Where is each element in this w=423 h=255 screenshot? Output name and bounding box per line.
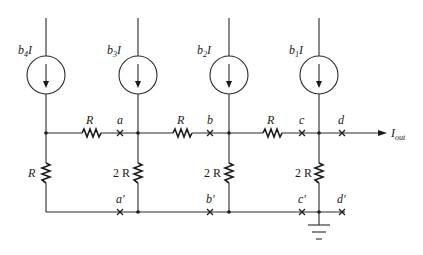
resistor-series-1 (82, 129, 101, 137)
label-b3I: b3I (107, 43, 122, 59)
label-r-series-3: R (266, 113, 275, 127)
current-source-b4 (27, 18, 65, 133)
label-r-shunt-left: R (27, 166, 36, 180)
current-source-b1 (300, 18, 338, 133)
current-source-b2 (210, 18, 248, 133)
resistor-series-2 (173, 129, 192, 137)
label-node-a-prime: a′ (116, 192, 125, 206)
resistor-shunt-a (134, 163, 142, 183)
output-arrow-icon (378, 130, 387, 136)
shunt-left (42, 133, 50, 212)
junction-dot (227, 210, 231, 214)
label-b2I: b2I (197, 43, 212, 59)
resistor-shunt-c (315, 163, 323, 183)
label-node-a: a (117, 113, 123, 127)
label-node-b-prime: b′ (206, 192, 215, 206)
junction-dot (136, 210, 140, 214)
current-source-b3 (119, 18, 157, 133)
label-r-shunt-a: 2 R (113, 166, 130, 180)
resistor-shunt-left (42, 163, 50, 183)
shunt-a (134, 133, 142, 212)
ground-icon (308, 212, 330, 239)
label-r-shunt-c: 2 R (295, 166, 312, 180)
label-node-b: b (207, 113, 213, 127)
shunt-c (315, 133, 323, 212)
label-r-series-2: R (176, 113, 185, 127)
resistor-shunt-b (225, 163, 233, 183)
shunt-b (225, 133, 233, 212)
label-node-c-prime: c′ (298, 192, 306, 206)
label-node-d: d (338, 113, 345, 127)
circuit-svg: b4I b3I b2I b1I R R R a (0, 0, 423, 255)
label-iout: Iout (390, 126, 406, 142)
circuit-diagram: b4I b3I b2I b1I R R R a (0, 0, 423, 255)
label-b4I: b4I (18, 43, 33, 59)
resistor-series-3 (263, 129, 282, 137)
label-r-shunt-b: 2 R (204, 166, 221, 180)
label-r-series-1: R (85, 113, 94, 127)
top-rail (46, 129, 387, 137)
label-b1I: b1I (289, 43, 304, 59)
label-node-c: c (299, 113, 305, 127)
label-node-d-prime: d′ (337, 192, 346, 206)
